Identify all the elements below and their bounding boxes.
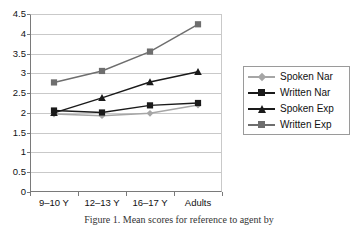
series-line bbox=[54, 24, 198, 82]
legend-key-spoken-nar bbox=[248, 70, 275, 83]
legend-label-spoken-exp: Spoken Exp bbox=[280, 103, 334, 115]
legend-item-written-exp[interactable]: Written Exp bbox=[248, 117, 332, 132]
data-point-marker bbox=[147, 102, 153, 108]
figure-caption: Figure 1. Mean scores for reference to a… bbox=[0, 214, 358, 225]
legend: Spoken Nar Written Nar Spoken Exp Writte… bbox=[243, 66, 350, 135]
legend-item-spoken-nar[interactable]: Spoken Nar bbox=[248, 69, 333, 84]
legend-key-spoken-exp bbox=[248, 102, 275, 115]
legend-label-written-nar: Written Nar bbox=[280, 87, 330, 99]
data-point-marker bbox=[195, 100, 201, 106]
series-line bbox=[54, 103, 198, 112]
data-point-marker bbox=[195, 21, 201, 27]
data-point-marker bbox=[147, 110, 154, 117]
legend-label-spoken-nar: Spoken Nar bbox=[280, 71, 333, 83]
line-chart: 00.511.522.533.544.5 9–10 Y12–13 Y16–17 … bbox=[0, 0, 358, 225]
data-point-marker bbox=[147, 48, 153, 54]
legend-key-written-nar bbox=[248, 86, 275, 99]
legend-label-written-exp: Written Exp bbox=[280, 119, 332, 131]
legend-item-written-nar[interactable]: Written Nar bbox=[248, 85, 330, 100]
legend-item-spoken-exp[interactable]: Spoken Exp bbox=[248, 101, 334, 116]
data-point-marker bbox=[194, 68, 202, 75]
data-point-marker bbox=[99, 109, 105, 115]
data-point-marker bbox=[51, 79, 57, 85]
legend-key-written-exp bbox=[248, 118, 275, 131]
data-point-marker bbox=[99, 68, 105, 74]
